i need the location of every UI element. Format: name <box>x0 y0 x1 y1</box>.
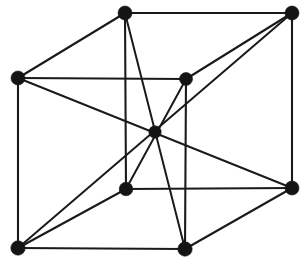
cube-edge-line <box>18 189 126 248</box>
atom-node-back-top-right: back-top-right <box>285 6 299 20</box>
atom-node-back-bottom-right: back-bottom-right <box>285 181 299 195</box>
atom-node-back-top-left: back-top-left <box>118 6 132 20</box>
atom-node-front-bottom-left: front-bottom-left <box>11 241 25 255</box>
atom-node-front-top-left: front-top-left <box>11 71 25 85</box>
cube-edge-line <box>18 78 186 79</box>
atom-node-front-top-right: front-top-right <box>180 73 193 86</box>
cube-edge-line <box>18 13 125 78</box>
cube-edge-line <box>126 188 292 189</box>
atom-node-front-bottom-right: front-bottom-right <box>178 242 192 256</box>
cube-edge-line <box>125 13 126 189</box>
cube-edge-line <box>185 188 292 249</box>
bcc-unit-cell-figure: back-top-leftback-top-rightfront-top-lef… <box>0 0 305 264</box>
atom-node-back-bottom-left: back-bottom-left <box>119 182 133 196</box>
cube-edge-line <box>186 13 292 79</box>
cube-edge-line <box>18 248 185 249</box>
lattice-diagram-canvas: back-top-leftback-top-rightfront-top-lef… <box>0 0 305 264</box>
atom-node-body-center: body-center <box>149 126 161 138</box>
